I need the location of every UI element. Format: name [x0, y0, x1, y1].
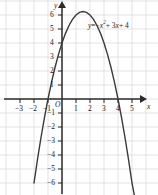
parabola-plot [0, 0, 158, 195]
y-tick-label-6: 6 [50, 11, 54, 19]
x-tick-label-4: 4 [116, 105, 120, 113]
y-tick-label--2: −2 [47, 123, 55, 131]
x-tick-label--2: −2 [29, 105, 37, 113]
x-tick-label-2: 2 [88, 105, 92, 113]
x-tick-label-3: 3 [102, 105, 106, 113]
x-axis-label: x [147, 103, 150, 111]
graph-figure: −3 −2 −1 1 2 3 4 5 6 5 4 3 2 1 −1 −2 −3 … [0, 0, 158, 195]
y-axis [58, 1, 66, 194]
y-axis-label: y [54, 2, 57, 10]
y-tick-label-2: 2 [50, 67, 54, 75]
y-tick-label--5: −5 [47, 165, 55, 173]
y-tick-label-4: 4 [50, 39, 54, 47]
equation-term2: + 3 [106, 21, 116, 30]
y-tick-label--6: −6 [47, 179, 55, 187]
y-tick-label--4: −4 [47, 151, 55, 159]
x-tick-label--3: −3 [15, 105, 23, 113]
y-tick-label-5: 5 [50, 25, 54, 33]
grid-horizontal [0, 1, 158, 183]
y-tick-label-1: 1 [50, 81, 54, 89]
y-tick-label-3: 3 [50, 53, 54, 61]
equation-term3: + 4 [119, 21, 129, 30]
y-tick-label--1: −1 [47, 109, 55, 117]
x-tick-label-1: 1 [74, 105, 78, 113]
origin-label: O [55, 101, 60, 109]
y-tick-label--3: −3 [47, 137, 55, 145]
x-tick-label-5: 5 [130, 105, 134, 113]
equation-annotation: y=−x2+ 3x+ 4 [88, 20, 129, 29]
